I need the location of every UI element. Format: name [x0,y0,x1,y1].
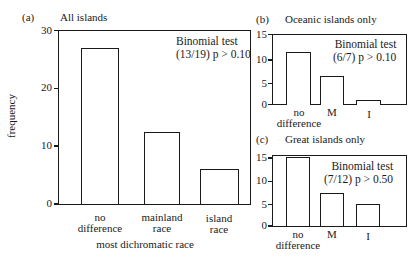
y-tick-label: 10 [247,175,267,186]
note-line-1: Binomial test [324,160,393,173]
y-tick-label: 0 [247,220,267,231]
y-tick-label: 10 [32,140,52,151]
note-line-1: Binomial test [333,38,396,51]
binomial-test-note: Binomial test (6/7) p > 0.10 [333,38,396,64]
panel-c-tag: (c) [256,133,268,145]
panel-c-title: Great islands only [285,133,365,145]
y-tick-label: 0 [247,99,267,110]
x-category-label: no difference [272,229,324,251]
bar-m [320,193,344,226]
x-axis-label: most dichromatic race [70,239,220,250]
y-tick-label: 0 [32,198,52,209]
panel-a-tag: (a) [22,11,34,23]
panel-b-tag: (b) [256,13,269,25]
note-line-2: (6/7) p > 0.10 [333,51,396,64]
note-line-1: Binomial test [176,35,251,48]
note-line-2: (13/19) p > 0.10 [176,48,251,61]
y-tick-label: 10 [247,54,267,65]
panel-b-title: Oceanic islands only [285,13,377,25]
binomial-test-note: Binomial test (7/12) p > 0.50 [324,160,393,186]
x-category-label: island race [184,213,254,235]
y-tick-label: 30 [32,25,52,36]
x-category-label: no difference [65,212,135,234]
bar-m [320,76,344,105]
binomial-test-note: Binomial test (13/19) p > 0.10 [176,35,251,61]
y-tick-label: 5 [247,78,267,89]
note-line-2: (7/12) p > 0.50 [324,173,393,186]
bar-no-difference [81,48,119,204]
bar-no-difference [286,157,310,227]
y-axis-label: frequency [5,76,17,156]
y-tick-label: 20 [32,82,52,93]
panel-a-title: All islands [60,11,107,23]
bar-i [356,100,381,105]
bar-no-difference [286,52,311,105]
x-category-label: I [358,231,378,242]
y-tick-label: 15 [247,152,267,163]
y-tick-label: 5 [247,199,267,210]
x-category-label: I [359,109,379,120]
bar-mainland-race [144,132,180,204]
bar-i [356,204,380,226]
x-category-label: no difference [273,107,325,129]
bar-island-race [200,169,239,204]
x-category-label: M [322,107,342,118]
y-tick-label: 15 [247,29,267,40]
x-category-label: M [322,229,342,240]
